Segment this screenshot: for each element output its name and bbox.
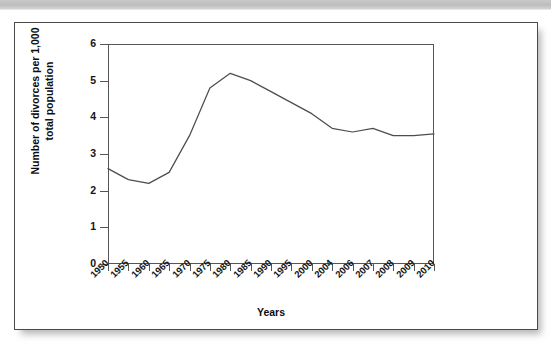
y-axis-title-line1: Number of divorces per 1,000 [29, 27, 41, 174]
y-tick-mark [100, 117, 108, 118]
chart-page: 0123456 19501955196019651970197519801985… [0, 0, 551, 349]
y-tick-label: 3 [72, 147, 96, 159]
plot-wrap: 0123456 19501955196019651970197519801985… [15, 23, 539, 331]
y-tick-label: 5 [72, 74, 96, 86]
figure-frame: 0123456 19501955196019651970197519801985… [14, 22, 538, 330]
y-tick-label: 1 [72, 220, 96, 232]
y-tick-label: 4 [72, 110, 96, 122]
data-line-series [108, 44, 434, 264]
y-axis-title-line2: total population [43, 62, 55, 141]
y-tick-label: 6 [72, 37, 96, 49]
top-band-edge [0, 9, 551, 10]
x-axis-title: Years [108, 306, 434, 318]
y-tick-label: 2 [72, 184, 96, 196]
top-gray-band [0, 0, 551, 9]
y-tick-mark [100, 81, 108, 82]
y-tick-mark [100, 154, 108, 155]
y-tick-mark [100, 44, 108, 45]
y-axis-title: Number of divorces per 1,000 total popul… [28, 16, 56, 186]
y-tick-mark [100, 227, 108, 228]
y-tick-mark [100, 191, 108, 192]
